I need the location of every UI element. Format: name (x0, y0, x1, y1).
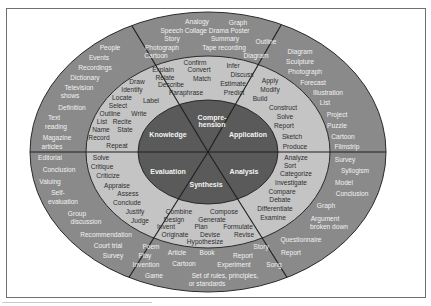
verb: Sketch (282, 133, 302, 140)
product: evaluation (48, 198, 78, 205)
verb: Categorize (280, 170, 312, 177)
verb: Recite (113, 118, 132, 125)
verb: Estimate (220, 80, 246, 87)
product: reading (45, 123, 67, 130)
verb: Justify (126, 208, 145, 215)
verb: Devise (200, 231, 220, 238)
verb: Paraphrase (169, 89, 203, 96)
verb: Examine (260, 214, 286, 221)
verb: Judge (131, 217, 149, 224)
verb: Conclude (113, 199, 141, 206)
verb: Solve (93, 154, 110, 161)
product: Diagram (288, 48, 313, 55)
product: Tape recording (202, 44, 246, 51)
product: Analogy (185, 18, 209, 25)
product: Self- (51, 189, 65, 196)
verb: Identify (121, 86, 142, 93)
verb: Solve (277, 113, 294, 120)
product: Graph (317, 202, 335, 209)
product: Cartoon (144, 52, 167, 59)
verb: Formulate (223, 223, 253, 230)
verb: Write (131, 110, 146, 117)
product: Editorial (38, 154, 62, 161)
verb: Build (253, 95, 268, 102)
product: Article (168, 249, 186, 256)
verb: Criticize (96, 172, 119, 179)
verb: Modify (260, 86, 279, 93)
verb: Infer (226, 62, 239, 69)
product: Outline (256, 38, 277, 45)
verb: Relate (155, 74, 174, 81)
product: Definition (58, 104, 86, 111)
product: Set of rules, principles, (192, 272, 259, 279)
product: Report (281, 249, 301, 256)
verb: Draw (129, 78, 144, 85)
verb: Label (143, 97, 159, 104)
verb: Produce (283, 143, 308, 150)
verb: Invent (157, 223, 175, 230)
product: Song (266, 261, 281, 268)
verb: Assess (117, 190, 138, 197)
verb: Confirm (183, 59, 206, 66)
verb: Design (164, 216, 185, 223)
product: Events (89, 54, 109, 61)
core-synthesis: Synthesis (189, 181, 222, 189)
product: Puzzle (327, 122, 347, 129)
core-evaluation: Evaluation (150, 168, 185, 176)
product: Poem (142, 243, 159, 250)
product: Summary (211, 35, 239, 42)
product: People (100, 44, 121, 51)
verb: Describe (158, 81, 184, 88)
product: Cartoon (172, 260, 195, 267)
product: Experiment (217, 261, 250, 268)
product: Speech Collage Drama Poster (160, 27, 249, 34)
verb: Hypothesize (187, 238, 223, 245)
verb: Combine (166, 208, 192, 215)
product: articles (42, 143, 63, 150)
product: Magazine (43, 134, 72, 141)
product: Television (65, 84, 94, 91)
product: Forecast (300, 79, 326, 86)
product: Conclusion (43, 166, 76, 173)
product: Report (233, 252, 253, 259)
core-comprehension-2: hension (199, 121, 226, 129)
product: Photograph (145, 44, 179, 51)
product: Play (139, 252, 152, 259)
product: Illustration (313, 89, 343, 96)
verb: Analyze (284, 154, 307, 161)
verb: Critique (91, 163, 114, 170)
verb: Repeat (106, 142, 127, 149)
verb: Debate (269, 196, 290, 203)
product: Book (199, 249, 214, 256)
product: Questionnaire (280, 236, 321, 243)
verb: Sort (284, 162, 296, 169)
core-analysis: Analysis (230, 168, 259, 176)
product: or standards (189, 280, 226, 287)
product: Story (164, 35, 179, 42)
verb: Compare (268, 188, 295, 195)
product: List (320, 99, 330, 106)
product: Invention (133, 261, 160, 268)
product: Graph (229, 19, 247, 26)
verb: Investigate (275, 179, 307, 186)
product: Game (145, 272, 163, 279)
verb: Apply (262, 77, 279, 84)
product: Recommendation (80, 231, 132, 238)
verb: Match (193, 75, 211, 82)
product: Diagram (244, 52, 269, 59)
verb: Compose (210, 208, 238, 215)
product: Syllogism (341, 167, 369, 174)
verb: Explain (152, 66, 174, 73)
verb: Discuss (230, 71, 253, 78)
product: Survey (103, 252, 124, 259)
verb: Record (88, 134, 109, 141)
verb: List (97, 118, 107, 125)
product: Recordings (78, 64, 111, 71)
product: Dictionary (70, 74, 99, 81)
product: discussion (71, 218, 102, 225)
verb: Generate (198, 216, 226, 223)
verb: Originate (162, 231, 189, 238)
verb: Plan (194, 223, 207, 230)
core-knowledge: Knowledge (149, 131, 186, 139)
product: shows (61, 92, 80, 99)
